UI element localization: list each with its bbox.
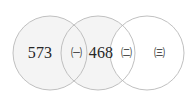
- middle-right-overlap-marker: ㈡: [121, 48, 132, 59]
- right-only-marker: ㈢: [154, 48, 165, 59]
- venn-diagram-figure: 573 ㈠ 468 ㈡ ㈢: [0, 0, 195, 99]
- left-only-count: 573: [28, 45, 53, 61]
- middle-only-count: 468: [89, 45, 114, 61]
- left-middle-overlap-marker: ㈠: [71, 48, 82, 59]
